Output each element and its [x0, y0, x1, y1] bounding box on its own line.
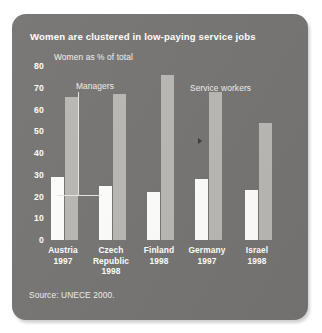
x-label-czech-republic-year: 1998 [82, 266, 140, 277]
y-tick-40: 40 [18, 148, 44, 158]
y-tick-10: 10 [18, 213, 44, 223]
chart-source: Source: UNECE 2000. [29, 290, 115, 300]
x-label-israel-year: 1998 [228, 256, 286, 267]
y-tick-0: 0 [18, 235, 44, 245]
y-tick-30: 30 [18, 170, 44, 180]
bar-managers-austria [51, 177, 64, 240]
leader-line-managers-vertical [78, 92, 79, 196]
bar-service-austria [65, 97, 78, 241]
y-tick-20: 20 [18, 192, 44, 202]
pointer-arrow-icon [198, 138, 202, 144]
chart-figure: Women are clustered in low-paying servic… [12, 14, 308, 320]
x-label-israel-name: Israel [228, 245, 286, 256]
y-tick-60: 60 [18, 105, 44, 115]
y-tick-80: 80 [18, 61, 44, 71]
bar-service-israel [259, 123, 272, 240]
bar-managers-israel [245, 190, 258, 240]
y-tick-50: 50 [18, 126, 44, 136]
leader-line-managers-left [57, 195, 79, 196]
annotation-service-workers: Service workers [190, 83, 251, 93]
bar-managers-germany [195, 179, 208, 240]
annotation-managers: Managers [76, 81, 114, 91]
leader-line-managers-right [78, 195, 102, 196]
x-label-israel: Israel 1998 [228, 245, 286, 266]
bar-managers-finland [147, 192, 160, 240]
bar-service-finland [161, 75, 174, 240]
plot-area: 80 70 60 50 40 30 20 10 0 Managers Servi… [12, 14, 308, 320]
bar-service-czech-republic [113, 94, 126, 240]
y-tick-70: 70 [18, 83, 44, 93]
bar-service-germany [209, 92, 222, 240]
bar-managers-czech-republic [99, 186, 112, 240]
